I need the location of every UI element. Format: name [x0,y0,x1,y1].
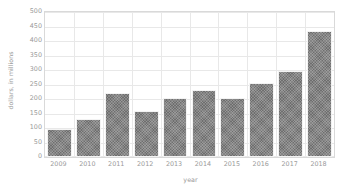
y-tick-label: 350 [4,51,42,59]
y-tick-label: 250 [4,80,42,88]
x-tick-label: 2011 [108,160,124,168]
y-tick-label: 100 [4,123,42,131]
bar [278,71,303,157]
y-tick-label: 300 [4,65,42,73]
bar [47,129,72,157]
gridline-vertical [74,12,75,157]
gridline-vertical [247,12,248,157]
x-tick-label: 2016 [253,160,269,168]
y-tick-label: 400 [4,36,42,44]
y-tick-label: 50 [4,138,42,146]
x-tick-label: 2015 [224,160,240,168]
x-axis-title: year [44,176,337,184]
bar [249,83,274,157]
gridline-vertical [305,12,306,157]
x-tick-label: 2012 [137,160,153,168]
bar [105,93,130,157]
gridline-vertical [276,12,277,157]
x-tick-label: 2010 [79,160,95,168]
x-tick-label: 2013 [166,160,182,168]
y-tick-label: 500 [4,7,42,15]
bar-chart-figure: dollars, in millions 0501001502002503003… [0,0,341,196]
bar [307,31,332,157]
plot-area [44,11,335,158]
bar [163,98,188,157]
x-tick-label: 2009 [50,160,66,168]
y-tick-label: 150 [4,109,42,117]
x-tick-label: 2014 [195,160,211,168]
bar [192,90,217,157]
x-tick-label: 2017 [282,160,298,168]
y-tick-label: 200 [4,94,42,102]
x-tick-label: 2018 [310,160,326,168]
y-tick-label: 0 [4,152,42,160]
x-axis-tick-labels: 2009201020112012201320142015201620172018 [44,160,335,174]
bar [76,119,101,157]
bar [220,98,245,157]
bar [134,111,159,157]
y-axis-tick-labels: 050100150200250300350400450500 [0,11,42,158]
y-tick-label: 450 [4,22,42,30]
gridline-vertical [218,12,219,157]
